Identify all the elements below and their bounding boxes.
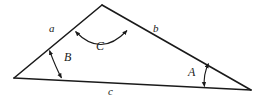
- triangle-figure: a b c A B C: [0, 0, 262, 102]
- angle-label-C: C: [96, 40, 104, 52]
- side-label-a: a: [49, 23, 55, 34]
- side-label-c: c: [108, 86, 113, 97]
- triangle-diagram-svg: [0, 0, 262, 102]
- angle-arc-group: [50, 31, 209, 87]
- triangle-side-c: [14, 78, 251, 90]
- angle-arc-B: [50, 51, 62, 79]
- angle-label-B: B: [64, 51, 71, 63]
- triangle-outline: [14, 5, 251, 90]
- angle-label-A: A: [188, 66, 195, 78]
- angle-arc-A: [204, 64, 208, 87]
- side-label-b: b: [153, 23, 159, 34]
- triangle-side-b: [102, 5, 251, 90]
